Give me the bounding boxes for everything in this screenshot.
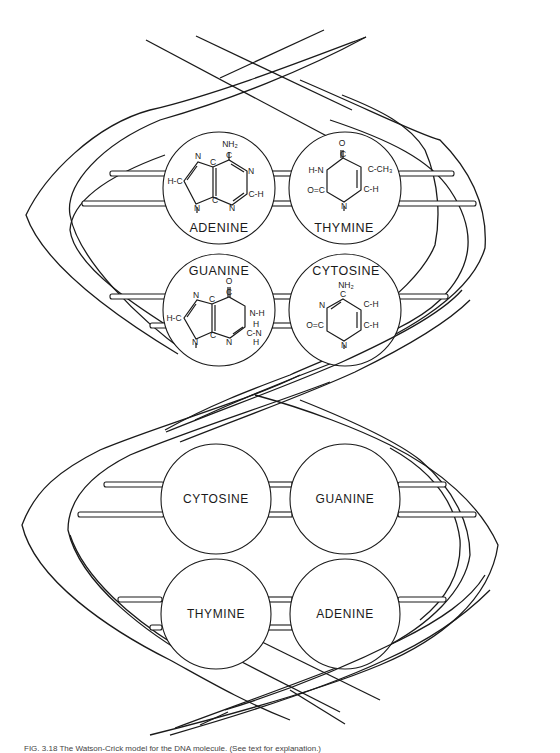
base-cytosine-lower: CYTOSINE [161,444,271,554]
adenine-nh2-label: NH₂ [222,139,238,149]
cytosine-n-left-label: N [319,300,325,310]
guanine-c-mid-bottom-label: C [210,330,216,340]
thymine-oc-label: O=C [307,185,325,195]
adenine-ch-label: C-H [248,189,263,199]
thymine-name: THYMINE [314,221,374,235]
guanine-hc-label: H-C [166,313,181,323]
guanine-h-bottom-label: H [253,337,259,347]
cytosine-ch-bottom-label: C-H [363,320,378,330]
base-thymine-upper: O C H-N C-CH₃ O=C C-H N THYMINE [289,132,401,244]
adenine-n-nine-label: N [194,203,200,213]
cytosine-n-bottom-label: N [341,340,347,350]
base-thymine-lower: THYMINE [161,559,271,669]
adenine-c-label: C [226,150,232,160]
rungs [78,171,476,630]
guanine-c-label: C [226,287,232,297]
cytosine-name: CYTOSINE [312,264,380,278]
guanine-n-five-label: N [193,290,199,300]
base-cytosine-upper: NH₂ C N C-H O=C C-H N CYTOSINE [289,254,401,366]
adenine-hc-label: H-C [167,176,182,186]
thymine-o-label: O [339,138,346,148]
guanine-lower-name: GUANINE [316,492,375,506]
base-adenine-lower: ADENINE [290,559,400,669]
guanine-n-nine-label: N [192,337,198,347]
base-guanine-lower: GUANINE [290,444,400,554]
guanine-name: GUANINE [189,264,249,278]
adenine-n-five-label: N [195,151,201,161]
thymine-n-label: N [341,201,347,211]
guanine-n-bottom-label: N [226,337,232,347]
thymine-lower-name: THYMINE [187,607,245,621]
thymine-ch-label: C-H [363,184,378,194]
thymine-c-label: C [340,149,346,159]
cytosine-lower-name: CYTOSINE [183,492,249,506]
adenine-name: ADENINE [189,221,248,235]
adenine-n-bottom-label: N [229,203,235,213]
guanine-h-top-label: H [253,319,259,329]
adenine-n-label: N [248,166,254,176]
figure-caption: FIG. 3.18 The Watson-Crick model for the… [24,744,321,753]
base-adenine-upper: NH₂ C N C-H N C C N H-C N ADENINE [163,132,275,244]
guanine-c-mid-top-label: C [209,294,215,304]
adenine-c-mid-bottom-label: C [212,195,218,205]
adenine-lower-name: ADENINE [316,607,374,621]
base-guanine-upper: O C N-H C C N H-C N N C-N H H GUANINE [163,254,275,366]
thymine-hn-label: H-N [308,165,323,175]
adenine-c-mid-top-label: C [210,157,216,167]
guanine-nh-label: N-H [249,308,264,318]
thymine-cch3-label: C-CH₃ [368,164,393,174]
cytosine-oc-label: O=C [306,320,324,330]
cytosine-c-label: C [340,289,346,299]
cytosine-ch-top-label: C-H [363,299,378,309]
